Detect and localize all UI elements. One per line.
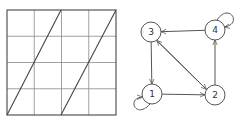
node-1: 1 xyxy=(142,84,162,104)
node-3: 3 xyxy=(141,22,161,42)
node-2: 2 xyxy=(205,85,225,105)
node-label: 2 xyxy=(212,90,218,100)
node-label: 1 xyxy=(149,89,155,99)
figure: 1234 xyxy=(0,0,249,127)
edge-2-to-3 xyxy=(157,40,207,89)
grid-panel xyxy=(7,10,116,115)
state-graph: 1234 xyxy=(134,13,234,110)
graph-nodes: 1234 xyxy=(141,20,225,105)
edge-3-to-1 xyxy=(151,42,152,84)
edge-4-to-3 xyxy=(161,30,205,31)
edge-1-to-2 xyxy=(162,94,205,95)
node-label: 4 xyxy=(212,25,218,35)
node-label: 3 xyxy=(148,27,154,37)
node-4: 4 xyxy=(205,20,225,40)
